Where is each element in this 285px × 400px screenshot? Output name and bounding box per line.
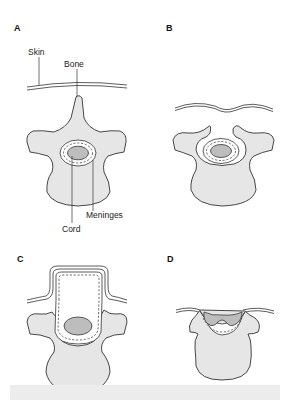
footer-bar — [10, 385, 280, 400]
panel-a: A Skin Bone Meninges Cord — [14, 23, 127, 234]
panel-b: B — [166, 23, 274, 206]
panel-label-d: D — [167, 254, 174, 264]
cord-label: Cord — [62, 224, 81, 234]
cord-c — [64, 317, 92, 335]
skin-left-d-inner — [176, 311, 200, 313]
spina-bifida-diagram: A Skin Bone Meninges Cord B C — [0, 0, 285, 400]
cord-a — [68, 146, 89, 160]
panel-c: C — [17, 254, 127, 393]
panel-d: D — [167, 254, 274, 380]
cord-b — [211, 145, 232, 158]
bone-label: Bone — [64, 59, 84, 69]
meninges-label: Meninges — [86, 210, 123, 220]
panel-label-a: A — [14, 23, 21, 33]
skin-label: Skin — [28, 47, 45, 57]
panel-label-c: C — [17, 254, 24, 264]
skin-left-d — [176, 308, 200, 310]
vertebra-b — [173, 126, 274, 206]
panel-label-b: B — [166, 23, 173, 33]
